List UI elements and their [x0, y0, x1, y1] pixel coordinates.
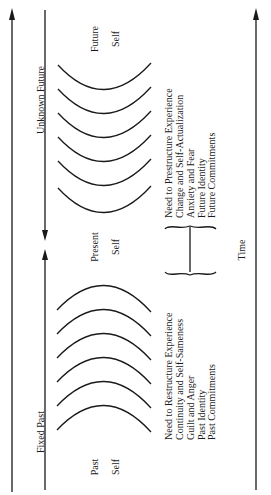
present-self-line2: Self [110, 238, 121, 255]
arrow-up-icon [9, 8, 15, 20]
past-self-line1: Past [89, 458, 100, 475]
svg-text:Change and Self-Actualization: Change and Self-Actualization [174, 95, 185, 218]
svg-text:Continuity and Self-Sameness: Continuity and Self-Sameness [174, 319, 185, 440]
svg-text:Future Commitments: Future Commitments [206, 133, 217, 218]
fixed-past-label: Fixed Past [35, 411, 46, 453]
past-arcs [57, 285, 151, 432]
svg-text:Anxiety and Fear: Anxiety and Fear [185, 148, 196, 218]
future-arcs [58, 63, 151, 213]
future-self-line1: Future [89, 25, 100, 52]
arrow-down-icon [42, 230, 48, 241]
svg-text:Need to Prestructure Experienc: Need to Prestructure Experience [163, 88, 174, 218]
past-self-line2: Self [110, 458, 121, 475]
present-self-line1: Present [89, 232, 100, 262]
diagram-canvas: Unknown Future Fixed Past Time Future Se… [0, 0, 271, 495]
present-brace [165, 226, 216, 275]
future-self-line2: Self [110, 30, 121, 47]
past-list: Need to Restructure Experience Continuit… [163, 312, 217, 440]
self-time-diagram: Unknown Future Fixed Past Time Future Se… [0, 0, 271, 495]
time-label: Time [236, 239, 247, 260]
svg-text:Need to Restructure Experience: Need to Restructure Experience [163, 312, 174, 440]
future-list: Need to Prestructure Experience Change a… [163, 88, 217, 218]
svg-text:Guilt and Anger: Guilt and Anger [185, 375, 196, 440]
svg-text:Past Commitments: Past Commitments [206, 364, 217, 440]
arrow-up-icon [253, 8, 259, 20]
arrow-up-icon [42, 249, 48, 260]
unknown-future-label: Unknown Future [35, 65, 46, 134]
